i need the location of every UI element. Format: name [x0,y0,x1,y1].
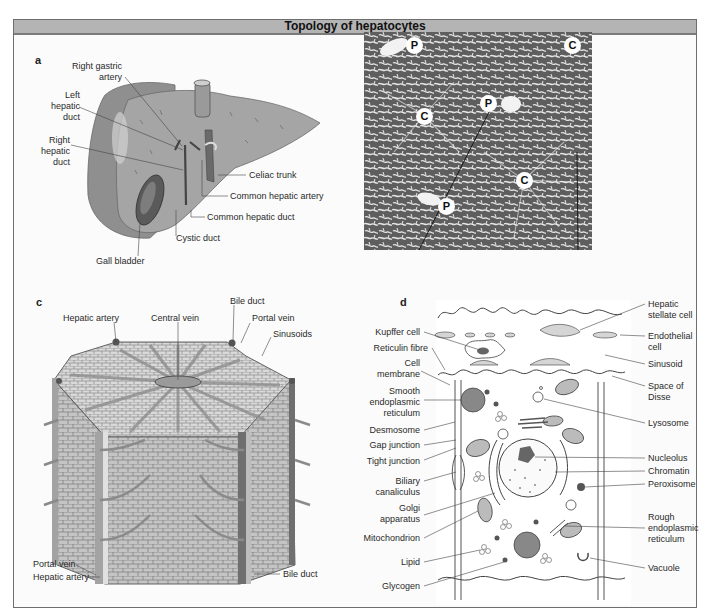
label-hepatic-stellate-1: Hepatic [648,299,679,310]
label-ser-3: reticulum [348,408,420,419]
label-biliary-canaliculus-1: Biliary [348,476,420,487]
label-desmosome: Desmosome [348,425,420,436]
label-hepatic-stellate-2: stellate cell [648,310,693,321]
label-nucleolus: Nucleolus [648,453,688,464]
label-golgi-1: Golgi [348,503,420,514]
label-biliary-canaliculus-2: canaliculus [348,487,420,498]
label-ser-1: Smooth [348,386,420,397]
label-space-of-disse-2: Disse [648,392,671,403]
label-lysosome: Lysosome [648,418,689,429]
label-space-of-disse-1: Space of [648,381,684,392]
label-cell-membrane-1: Cell [348,358,420,369]
label-rer-2: endoplasmic [648,523,699,534]
label-peroxisome: Peroxisome [648,479,696,490]
label-lipid: Lipid [348,557,420,568]
label-sinusoid: Sinusoid [648,359,683,370]
label-endothelial-2: cell [648,342,662,353]
label-mitochondrion: Mitochondrion [348,533,420,544]
label-rer-1: Rough [648,512,675,523]
label-tight-junction: Tight junction [348,456,420,467]
label-gap-junction: Gap junction [348,440,420,451]
label-golgi-2: apparatus [348,514,420,525]
label-rer-3: reticulum [648,534,685,545]
label-cell-membrane-2: membrane [348,369,420,380]
label-glycogen: Glycogen [348,581,420,592]
label-ser-2: endoplasmic [348,397,420,408]
label-endothelial-1: Endothelial [648,331,693,342]
label-chromatin: Chromatin [648,466,690,477]
label-reticulin-fibre: Reticulin fibre [348,343,428,354]
label-kupffer-cell: Kupffer cell [348,327,420,338]
label-vacuole: Vacuole [648,563,680,574]
